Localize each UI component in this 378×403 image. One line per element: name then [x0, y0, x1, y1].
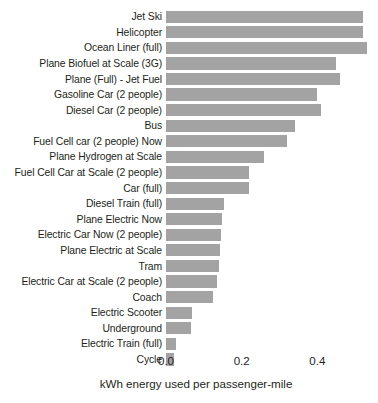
bar-track — [166, 71, 378, 87]
chart-plot-area: Jet SkiHelicopterOcean Liner (full)Plane… — [0, 9, 378, 352]
bar-track — [166, 227, 378, 243]
bar-category-label: Underground — [0, 323, 166, 334]
bar-row: Electric Car Now (2 people) — [0, 227, 378, 243]
bar — [166, 182, 249, 194]
bar — [166, 11, 363, 23]
bar-chart: Jet SkiHelicopterOcean Liner (full)Plane… — [0, 0, 378, 403]
bar-track — [166, 196, 378, 212]
bar-track — [166, 87, 378, 103]
bar-track — [166, 243, 378, 259]
bar — [166, 88, 317, 100]
bar-track — [166, 134, 378, 150]
bar-row: Plane Electric at Scale — [0, 243, 378, 259]
bar-track — [166, 180, 378, 196]
bar-row: Gasoline Car (2 people) — [0, 87, 378, 103]
bar-category-label: Electric Scooter — [0, 307, 166, 318]
bar-row: Helicopter — [0, 25, 378, 41]
bar — [166, 104, 321, 116]
bar — [166, 307, 192, 319]
bar — [166, 42, 367, 54]
bar-category-label: Plane Electric Now — [0, 214, 166, 225]
bar — [166, 275, 217, 287]
bar-category-label: Coach — [0, 292, 166, 303]
bar-row: Diesel Car (2 people) — [0, 102, 378, 118]
bar-row: Underground — [0, 321, 378, 337]
bar — [166, 26, 363, 38]
bar-row: Electric Scooter — [0, 305, 378, 321]
bar — [166, 151, 264, 163]
bar — [166, 213, 222, 225]
bar-track — [166, 321, 378, 337]
bar-row: Plane Electric Now — [0, 212, 378, 228]
bar-category-label: Helicopter — [0, 27, 166, 38]
bar — [166, 244, 220, 256]
bar-category-label: Plane Biofuel at Scale (3G) — [0, 58, 166, 69]
bar-row: Tram — [0, 258, 378, 274]
bar-track — [166, 118, 378, 134]
bar-track — [166, 40, 378, 56]
x-tick-label: 0.4 — [309, 354, 325, 367]
bar-category-label: Plane Hydrogen at Scale — [0, 151, 166, 162]
bar-category-label: Electric Car at Scale (2 people) — [0, 276, 166, 287]
bar-category-label: Plane Electric at Scale — [0, 245, 166, 256]
bar — [166, 73, 340, 85]
bar-track — [166, 25, 378, 41]
bar-track — [166, 165, 378, 181]
bar-track — [166, 258, 378, 274]
bar — [166, 291, 213, 303]
bar-row: Fuel Cell car (2 people) Now — [0, 134, 378, 150]
bar-row: Jet Ski — [0, 9, 378, 25]
x-tick-label: 0.0 — [158, 354, 174, 367]
bar-category-label: Ocean Liner (full) — [0, 42, 166, 53]
bar-row: Plane (Full) - Jet Fuel — [0, 71, 378, 87]
bar-category-label: Car (full) — [0, 183, 166, 194]
bar-category-label: Diesel Train (full) — [0, 198, 166, 209]
bar-category-label: Fuel Cell car (2 people) Now — [0, 136, 166, 147]
bar-category-label: Electric Train (full) — [0, 338, 166, 349]
bar-track — [166, 56, 378, 72]
bar-track — [166, 212, 378, 228]
bar-row: Car (full) — [0, 180, 378, 196]
bar-row: Plane Hydrogen at Scale — [0, 149, 378, 165]
bar-category-label: Tram — [0, 261, 166, 272]
x-tick-label: 0.2 — [234, 354, 250, 367]
bar — [166, 338, 176, 350]
bar-row: Ocean Liner (full) — [0, 40, 378, 56]
bar-row: Plane Biofuel at Scale (3G) — [0, 56, 378, 72]
bar-category-label: Jet Ski — [0, 11, 166, 22]
x-axis: 0.00.20.4 — [0, 352, 378, 374]
bar-row: Electric Train (full) — [0, 336, 378, 352]
bar — [166, 198, 224, 210]
bar-track — [166, 149, 378, 165]
bar-track — [166, 102, 378, 118]
bar-track — [166, 274, 378, 290]
bar-category-label: Electric Car Now (2 people) — [0, 229, 166, 240]
bar-category-label: Gasoline Car (2 people) — [0, 89, 166, 100]
bar-track — [166, 289, 378, 305]
bar — [166, 260, 219, 272]
bar — [166, 229, 221, 241]
bar-category-label: Fuel Cell Car at Scale (2 people) — [0, 167, 166, 178]
bar — [166, 57, 336, 69]
bar-row: Bus — [0, 118, 378, 134]
bar-track — [166, 9, 378, 25]
bar-category-label: Plane (Full) - Jet Fuel — [0, 74, 166, 85]
bar — [166, 120, 295, 132]
bar — [166, 166, 249, 178]
bar-row: Fuel Cell Car at Scale (2 people) — [0, 165, 378, 181]
bar — [166, 322, 191, 334]
bar-row: Coach — [0, 289, 378, 305]
bar — [166, 135, 287, 147]
bar-row: Electric Car at Scale (2 people) — [0, 274, 378, 290]
bar-track — [166, 305, 378, 321]
x-axis-title: kWh energy used per passenger-mile — [0, 377, 378, 391]
bar-row: Diesel Train (full) — [0, 196, 378, 212]
bar-category-label: Bus — [0, 120, 166, 131]
bar-category-label: Diesel Car (2 people) — [0, 105, 166, 116]
bar-track — [166, 336, 378, 352]
